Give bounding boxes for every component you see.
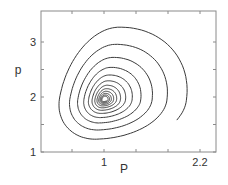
- x-tick-label: 1: [101, 156, 107, 168]
- phase-plot: 12.2123 P p: [0, 0, 228, 185]
- y-tick-label: 3: [30, 36, 36, 48]
- plot-area: [59, 27, 187, 139]
- spiral-trajectory: [59, 27, 187, 139]
- axis-ticks: [41, 11, 216, 152]
- x-axis-label: P: [120, 162, 128, 176]
- axes-frame: [41, 11, 216, 152]
- tick-labels: 12.2123: [30, 36, 208, 168]
- y-axis-label: p: [15, 63, 22, 77]
- x-tick-label: 2.2: [192, 156, 207, 168]
- y-tick-label: 2: [30, 91, 36, 103]
- y-tick-label: 1: [30, 146, 36, 158]
